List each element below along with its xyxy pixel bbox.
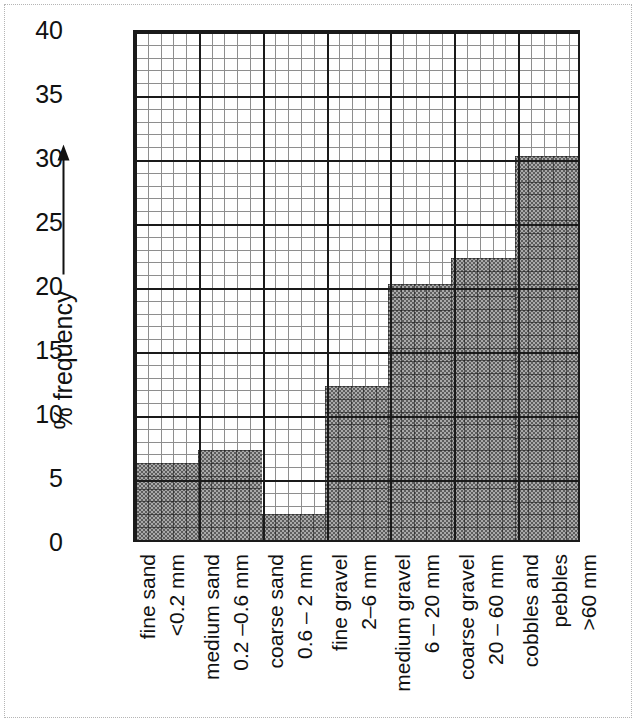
figure-frame: 4035302520151050 % frequency fine sand<0… <box>4 4 632 718</box>
y-axis-tick-label: 0 <box>11 528 63 557</box>
x-axis-category-line: fine gravel <box>325 550 354 723</box>
bar-series <box>135 32 578 540</box>
x-axis-category-line: 6 – 20 mm <box>417 550 446 723</box>
x-axis-category: coarse gravel20 – 60 mm <box>452 550 516 724</box>
x-axis-category-line: pebbles <box>545 550 574 723</box>
x-axis-category-line: cobbles and <box>516 550 545 723</box>
bar <box>262 514 325 540</box>
x-axis-category-line: fine sand <box>133 550 162 723</box>
bar <box>451 258 514 540</box>
x-axis-category: medium sand0.2 –0.6 mm <box>197 550 261 724</box>
up-arrow-icon <box>55 145 71 277</box>
x-axis-category-labels: fine sand<0.2 mmmedium sand0.2 –0.6 mmco… <box>133 550 580 724</box>
x-axis-category: cobbles andpebbles>60 mm <box>516 550 580 724</box>
x-axis-category: fine sand<0.2 mm <box>133 550 197 724</box>
x-axis-category-line: 2–6 mm <box>354 550 383 723</box>
x-axis-category-line: coarse gravel <box>452 550 481 723</box>
x-axis-category: medium gravel6 – 20 mm <box>388 550 452 724</box>
y-axis-title-label: % frequency <box>49 291 78 430</box>
bar <box>198 450 261 540</box>
x-axis-category-line: 20 – 60 mm <box>481 550 510 723</box>
x-axis-category-line: <0.2 mm <box>162 550 191 723</box>
bar <box>135 463 198 540</box>
x-axis-category-line: coarse sand <box>261 550 290 723</box>
y-axis-tick-label: 40 <box>11 16 63 45</box>
x-axis-category-line: >60 mm <box>574 550 603 723</box>
y-axis-tick-label: 35 <box>11 80 63 109</box>
x-axis-category-line: medium gravel <box>388 550 417 723</box>
x-axis-category-line: 0.6 – 2 mm <box>290 550 319 723</box>
bar <box>325 386 388 540</box>
x-axis-category: fine gravel2–6 mm <box>325 550 389 724</box>
chart-plot-area <box>133 30 580 542</box>
bar <box>515 156 578 540</box>
x-axis-category-line: medium sand <box>197 550 226 723</box>
bar <box>388 284 451 540</box>
y-axis-tick-label: 5 <box>11 464 63 493</box>
x-axis-category-line: 0.2 –0.6 mm <box>226 550 255 723</box>
x-axis-category: coarse sand0.6 – 2 mm <box>261 550 325 724</box>
y-axis-title: % frequency <box>49 130 78 430</box>
